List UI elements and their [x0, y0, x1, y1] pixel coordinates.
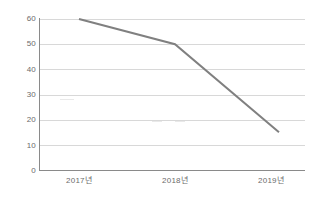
- line-chart: 60 50 40 30 20 10 0 2017년 2018년 2019년: [0, 0, 324, 204]
- data-line-series-1: [79, 19, 279, 132]
- series-layer: [0, 0, 324, 204]
